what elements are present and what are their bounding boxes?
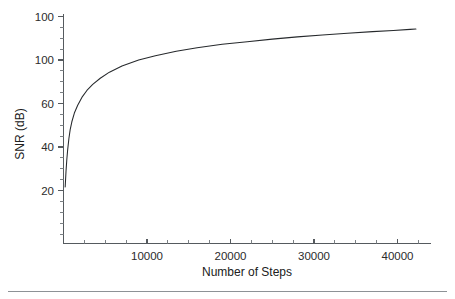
x-axis: 10000 20000 30000 40000 Number of Steps: [64, 239, 432, 280]
x-tick-label-0: 10000: [131, 250, 163, 262]
x-tick-label-3: 40000: [382, 250, 414, 262]
x-tick-label-1: 20000: [215, 250, 247, 262]
x-tick-label-2: 30000: [298, 250, 330, 262]
y-tick-label-3: 40: [41, 141, 54, 153]
y-axis-major-ticks: [58, 17, 64, 191]
y-tick-label-1: 100: [35, 54, 54, 66]
snr-curve: [65, 29, 416, 187]
y-axis-title: SNR (dB): [13, 108, 27, 159]
snr-vs-steps-chart: 100 100 60 40 20 SNR (dB): [0, 0, 455, 299]
y-tick-label-2: 60: [41, 98, 54, 110]
y-axis: 100 100 60 40 20 SNR (dB): [13, 11, 64, 245]
x-axis-title: Number of Steps: [202, 265, 292, 279]
y-tick-label-0: 100: [35, 11, 54, 23]
figure-container: 100 100 60 40 20 SNR (dB): [0, 0, 455, 299]
y-tick-label-4: 20: [41, 185, 54, 197]
